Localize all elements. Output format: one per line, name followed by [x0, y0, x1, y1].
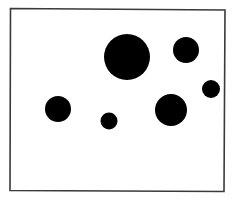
diagram-canvas	[0, 0, 235, 203]
dot-left	[45, 96, 71, 122]
frame-border	[10, 9, 225, 192]
dot-right-edge-small	[202, 80, 220, 98]
dot-large-top-center	[104, 34, 150, 80]
dot-group	[45, 34, 220, 130]
dot-top-right	[173, 37, 199, 63]
diagram-svg	[0, 0, 235, 203]
dot-lower-right	[155, 94, 187, 126]
dot-bottom-small	[101, 113, 118, 130]
